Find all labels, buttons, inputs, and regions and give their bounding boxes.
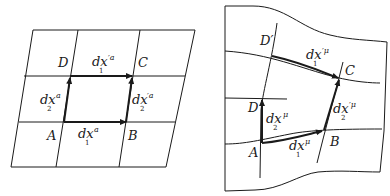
svg-text:1: 1 [85, 139, 89, 147]
flat-grid-panel [11, 30, 195, 167]
svg-text:2: 2 [341, 114, 345, 122]
point-C-label: C [345, 63, 355, 78]
svg-text:a: a [94, 125, 99, 134]
label-dx1-prime: dx ′μ 1 [306, 46, 329, 68]
label-dx2-prime: dx ′a 2 [132, 91, 154, 113]
point-D-label: D [57, 55, 69, 70]
point-C-label: C [138, 55, 148, 70]
svg-text:′a: ′a [108, 53, 115, 62]
label-dx2: dx a 2 [40, 91, 61, 113]
label-dx1: dx a 1 [78, 125, 99, 147]
svg-text:1: 1 [296, 151, 300, 159]
point-D-label: D [247, 100, 259, 115]
svg-text:2: 2 [273, 124, 277, 132]
svg-text:a: a [56, 91, 61, 100]
vector-dx1-prime [272, 56, 338, 78]
label-dx1-prime: dx ′a 1 [92, 53, 115, 75]
point-B-label: B [329, 134, 340, 149]
svg-text:μ: μ [283, 110, 288, 119]
flat-grid-outline [11, 30, 195, 167]
point-A-label: A [248, 145, 258, 160]
svg-text:2: 2 [47, 105, 51, 113]
svg-text:′μ: ′μ [322, 46, 329, 55]
svg-text:1: 1 [313, 60, 317, 68]
label-dx1: dx μ 1 [289, 137, 310, 159]
point-A-label: A [46, 128, 56, 143]
grid-curve-h-top [225, 51, 380, 83]
label-dx2: dx μ 2 [266, 110, 288, 132]
svg-text:′a: ′a [147, 91, 154, 100]
svg-text:μ: μ [305, 137, 310, 146]
grid-curve-h-mid [225, 98, 287, 99]
svg-text:1: 1 [99, 67, 103, 75]
vector-dx2 [64, 78, 70, 122]
svg-text:′μ: ′μ [349, 100, 356, 109]
point-B-label: B [127, 128, 138, 143]
point-D-prime-label: D′ [259, 33, 273, 48]
parallel-transport-diagram: D C A B dx ′a 1 dx a 2 dx ′a 2 dx a 1 D′ [0, 0, 390, 196]
label-dx2-prime: dx ′μ 2 [333, 100, 356, 122]
svg-text:2: 2 [140, 105, 144, 113]
curved-grid-panel [225, 6, 387, 191]
